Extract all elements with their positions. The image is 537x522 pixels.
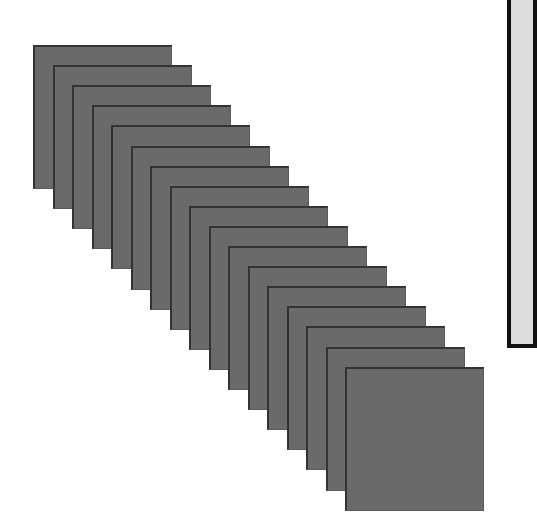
stacked-card (345, 367, 484, 511)
side-panel (507, 0, 537, 348)
